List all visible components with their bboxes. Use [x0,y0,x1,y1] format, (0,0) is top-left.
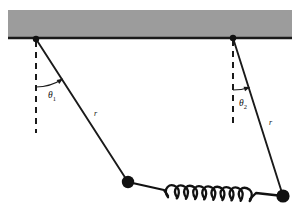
right-mass-bob [276,189,289,202]
left-mass-bob [122,176,134,188]
physics-diagram-figure: θ1 θ2 r r [0,0,304,216]
diagram-canvas: θ1 θ2 r r [0,0,304,216]
theta-2-subscript: 2 [244,103,247,110]
right-pivot-point [230,35,236,41]
support-bar-group [8,10,292,38]
theta-1-subscript: 1 [53,95,56,102]
left-pivot-point [33,36,39,42]
support-bar [8,10,292,38]
